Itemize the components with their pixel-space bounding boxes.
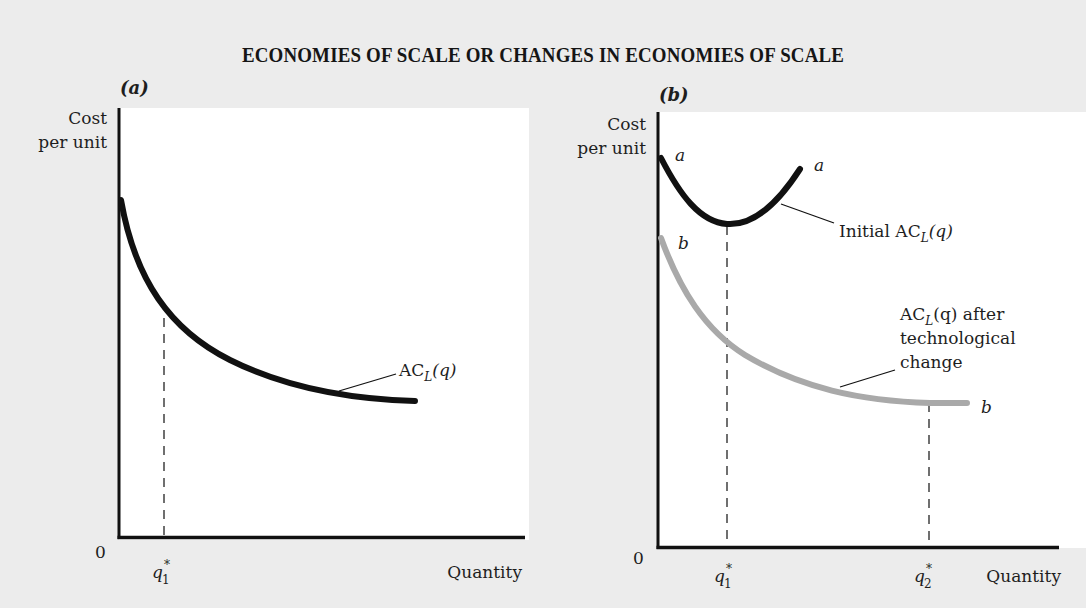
panel-b: (b) Cost per unit a a b b Initial ACL(q) [577,84,1086,591]
panel-a-ylabel-line2: per unit [38,132,107,152]
panel-a-xlabel: Quantity [447,562,522,582]
panel-b-after-label-line2: technological [900,328,1016,348]
panel-b-q1-label: q*1 [714,562,732,591]
panel-b-curve-a-end-label: a [814,155,824,175]
panel-b-ylabel-line2: per unit [577,138,646,158]
panel-a-label: (a) [120,77,149,98]
panel-b-q2-label: q*2 [914,562,932,591]
panel-a-ylabel-line1: Cost [68,108,107,128]
panel-b-xlabel: Quantity [986,566,1061,586]
panel-b-curve-b-end-label: b [981,397,992,417]
panel-b-curve-b-start-label: b [678,233,689,253]
panel-b-after-label-line3: change [900,352,963,372]
panel-b-curve-a-start-label: a [675,145,685,165]
figure-canvas: (a) Cost per unit ACL(q) 0 q*1 Quantity … [0,0,1086,608]
panel-a: (a) Cost per unit ACL(q) 0 q*1 Quantity [38,77,529,587]
panel-b-label: (b) [659,84,689,105]
panel-a-q1-label: q*1 [152,558,170,587]
panel-a-origin-label: 0 [95,542,106,562]
panel-b-origin-label: 0 [633,548,644,568]
panel-b-ylabel-line1: Cost [607,114,646,134]
panel-b-plot-area [658,112,1086,548]
figure: ECONOMIES OF SCALE OR CHANGES IN ECONOMI… [0,0,1086,608]
